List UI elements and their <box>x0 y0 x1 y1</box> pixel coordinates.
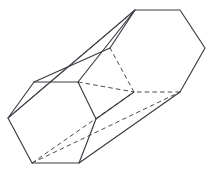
figure-canvas <box>0 0 214 178</box>
hexagonal-prism-drawing <box>0 0 214 178</box>
